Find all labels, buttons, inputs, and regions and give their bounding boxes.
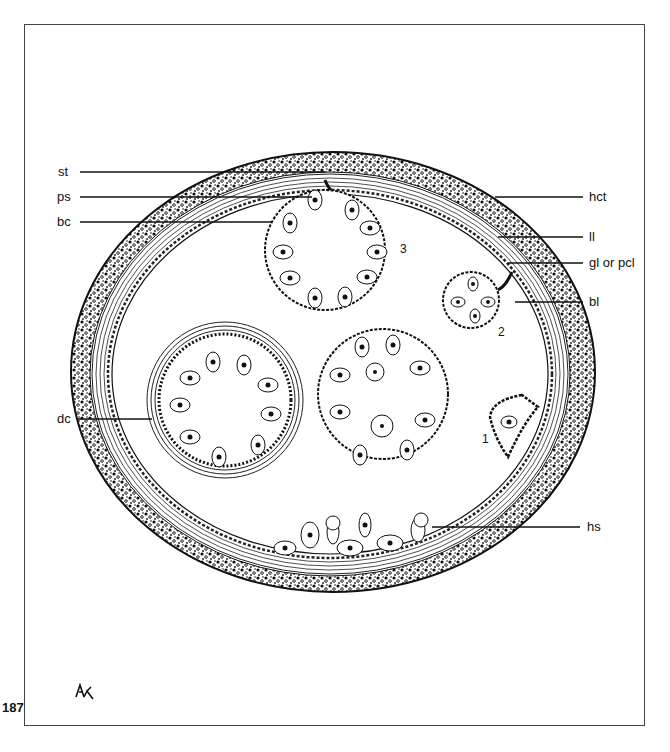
page-number: 187 bbox=[2, 700, 24, 715]
label-st: st bbox=[58, 165, 68, 178]
label-ps: ps bbox=[57, 190, 71, 203]
label-hs: hs bbox=[587, 520, 601, 533]
label-bl: bl bbox=[589, 295, 599, 308]
label-bc: bc bbox=[57, 215, 71, 228]
cross-section-drawing bbox=[0, 0, 670, 752]
stage-number-3: 3 bbox=[400, 242, 407, 256]
daughter-cyst bbox=[147, 322, 303, 478]
artist-signature bbox=[76, 685, 93, 699]
stage-number-1: 1 bbox=[482, 432, 489, 446]
label-dc: dc bbox=[57, 412, 71, 425]
stage-number-2: 2 bbox=[498, 325, 505, 339]
label-ll: ll bbox=[589, 230, 595, 243]
label-gl-or-pcl: gl or pcl bbox=[589, 256, 635, 269]
label-hct: hct bbox=[589, 190, 606, 203]
